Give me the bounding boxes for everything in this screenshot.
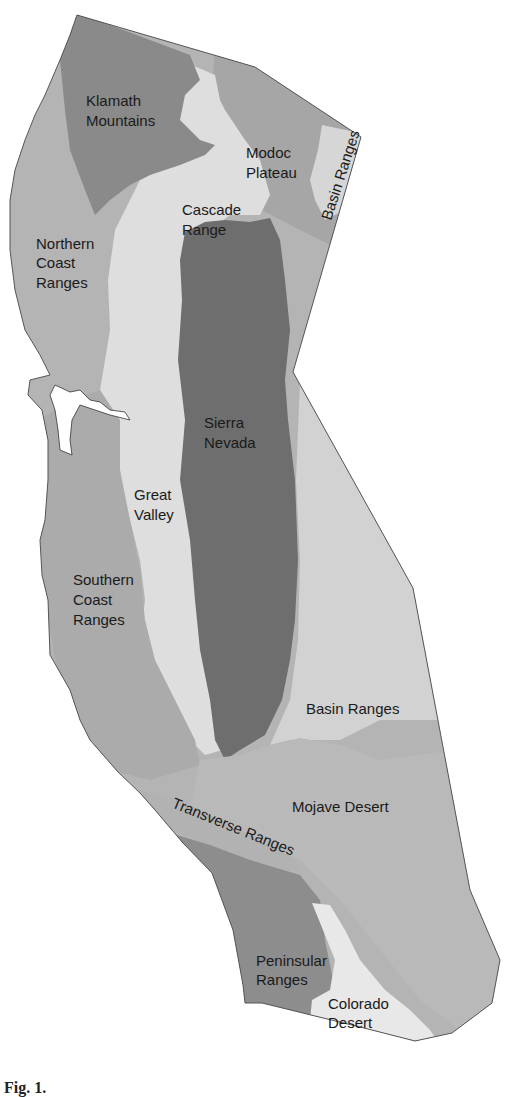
label-colorado: Desert <box>328 1014 373 1031</box>
label-sierra: Nevada <box>204 434 256 451</box>
label-modoc: Plateau <box>246 164 297 181</box>
label-peninsular: Ranges <box>256 971 308 988</box>
label-northern-coast: Coast <box>36 254 76 271</box>
california-geomorphic-map: Klamath Mountains Modoc Plateau Basin Ra… <box>0 0 513 1075</box>
label-modoc: Modoc <box>246 144 292 161</box>
label-southern-coast: Coast <box>73 591 113 608</box>
label-sierra: Sierra <box>204 414 245 431</box>
label-great-valley: Great <box>134 486 172 503</box>
label-northern-coast: Northern <box>36 235 94 252</box>
label-cascade: Range <box>182 221 226 238</box>
label-mojave: Mojave Desert <box>292 798 390 815</box>
label-klamath: Mountains <box>86 112 155 129</box>
label-southern-coast: Southern <box>73 571 134 588</box>
label-colorado: Colorado <box>328 995 389 1012</box>
figure-caption: Fig. 1. <box>4 1079 46 1097</box>
figure-caption-prefix: Fig. 1. <box>4 1079 46 1096</box>
label-cascade: Cascade <box>182 201 241 218</box>
label-northern-coast: Ranges <box>36 274 88 291</box>
label-southern-coast: Ranges <box>73 611 125 628</box>
label-great-valley: Valley <box>134 506 174 523</box>
label-klamath: Klamath <box>86 92 141 109</box>
label-peninsular: Peninsular <box>256 952 327 969</box>
label-basin-ranges-south: Basin Ranges <box>306 700 399 717</box>
